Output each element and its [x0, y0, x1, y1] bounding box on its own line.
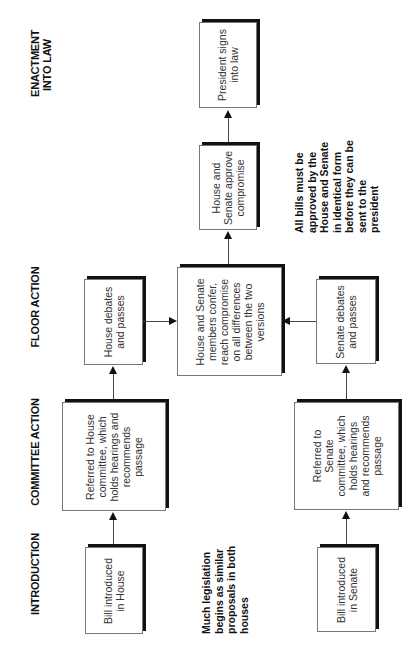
- arrow-up-icon: [342, 365, 350, 373]
- arrow-up-icon: [224, 110, 232, 118]
- senate-debates-box: Senate debates and passes: [316, 279, 376, 364]
- bill-senate-text: Bill introduced in Senate: [335, 547, 359, 632]
- note-identical-form: All bills must be approved by the House …: [293, 123, 381, 233]
- senate-committee-box: Referred to Senate committee, which hold…: [294, 402, 399, 510]
- house-committee-text: Referred to House committee, which holds…: [84, 402, 144, 511]
- conference-box: House and Senate members confer, reach c…: [177, 267, 282, 376]
- bill-house-box: Bill introduced in House: [85, 547, 143, 634]
- connector-intro-to-committee-house: [113, 519, 114, 547]
- conference-text: House and Senate members confer, reach c…: [194, 267, 266, 376]
- connector-conference-to-approve: [228, 238, 229, 266]
- connector-intro-to-committee-senate: [346, 518, 347, 547]
- stage-heading-floor-action: FLOOR ACTION: [29, 252, 41, 362]
- house-debates-text: House debates and passes: [102, 279, 126, 365]
- senate-committee-text: Referred to Senate committee, which hold…: [311, 402, 383, 510]
- connector-approve-to-president: [228, 116, 229, 144]
- arrow-left-icon: [282, 317, 290, 325]
- note-similar-proposals: Much legislation begins as similar propo…: [200, 524, 250, 634]
- bill-house-text: Bill introduced in House: [102, 547, 126, 634]
- connector-senate-to-conference: [290, 321, 316, 322]
- house-committee-box: Referred to House committee, which holds…: [62, 402, 166, 511]
- president-signs-text: President signs into law: [216, 22, 240, 108]
- stage-heading-introduction: INTRODUCTION: [29, 514, 41, 634]
- arrow-right-icon: [169, 317, 177, 325]
- arrow-up-icon: [224, 231, 232, 239]
- approve-compromise-text: House and Senate approve compromise: [210, 145, 246, 230]
- connector-house-to-conference: [143, 321, 170, 322]
- arrow-up-icon: [109, 366, 117, 374]
- connector-committee-to-floor-house: [113, 373, 114, 403]
- stage-heading-enactment: ENACTMENT INTO LAW: [29, 33, 53, 97]
- house-debates-box: House debates and passes: [84, 279, 143, 365]
- arrow-up-icon: [109, 512, 117, 520]
- arrow-up-icon: [342, 511, 350, 519]
- senate-debates-text: Senate debates and passes: [334, 279, 358, 364]
- president-signs-box: President signs into law: [199, 22, 257, 108]
- stage-heading-committee-action: COMMITTEE ACTION: [29, 392, 41, 512]
- approve-compromise-box: House and Senate approve compromise: [199, 145, 257, 230]
- connector-committee-to-floor-senate: [346, 372, 347, 403]
- bill-senate-box: Bill introduced in Senate: [317, 547, 376, 632]
